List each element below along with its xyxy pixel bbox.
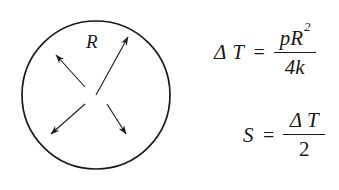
equation-2-denominator: 2: [295, 135, 314, 160]
equation-2-lhs: S: [243, 123, 254, 148]
equation-2-numerator: Δ T: [286, 110, 323, 134]
arrow-lower-right: [107, 104, 126, 134]
equation-1-numerator: pR2: [276, 26, 314, 52]
equation-2-fraction: Δ T 2: [283, 110, 325, 161]
equation-2-equals: =: [263, 124, 274, 147]
equation-s: S = Δ T 2: [243, 100, 325, 170]
equation-delta-t: Δ T = pR2 4k: [214, 17, 316, 87]
radius-label: R: [86, 31, 98, 53]
equation-1-denominator: 4k: [281, 53, 309, 78]
figure-container: R Δ T = pR2 4k S = Δ T 2: [0, 0, 339, 190]
equation-1-lhs: Δ T: [214, 40, 244, 65]
equation-1-fraction: pR2 4k: [274, 26, 316, 79]
arrow-lower-left: [51, 104, 85, 134]
arrow-upper-left: [56, 55, 85, 87]
radius-arrow-upper-right: [96, 37, 128, 95]
equation-1-numerator-base: pR: [280, 26, 303, 50]
equation-1-numerator-exponent: 2: [304, 19, 311, 34]
equation-1-equals: =: [253, 41, 264, 64]
